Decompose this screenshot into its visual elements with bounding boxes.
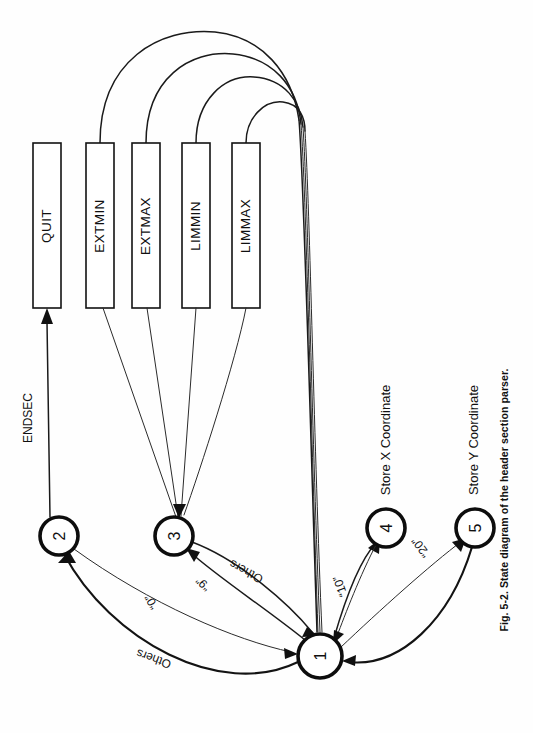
figure-container: QUIT EXTMIN EXTMAX LIMMIN LIMMAX bbox=[0, 0, 533, 733]
state-node-4[interactable]: 4 bbox=[367, 509, 405, 547]
state-circle-group: 1 2 3 4 5 bbox=[40, 509, 494, 678]
state-node-3[interactable]: 3 bbox=[155, 517, 193, 555]
edge-group-1-4: “10” bbox=[330, 539, 380, 644]
action-label-store-x: Store X Coordinate bbox=[378, 385, 393, 496]
edge-label-twenty: “20” bbox=[409, 535, 433, 560]
arrowhead-into-quit bbox=[41, 308, 53, 324]
box-limmax[interactable]: LIMMAX bbox=[232, 143, 260, 308]
box-limmin[interactable]: LIMMIN bbox=[182, 143, 210, 308]
edge-label-endsec: ENDSEC bbox=[21, 393, 35, 443]
figure-caption-group: Fig. 5-2. State diagram of the header se… bbox=[498, 368, 510, 631]
edge-state3-to-limmin bbox=[181, 308, 196, 516]
state-label-1: 1 bbox=[312, 651, 329, 660]
box-label-extmin: EXTMIN bbox=[92, 199, 107, 252]
state-label-4: 4 bbox=[378, 523, 395, 532]
edge-state3-to-extmin bbox=[103, 308, 176, 517]
state-diagram-svg: QUIT EXTMIN EXTMAX LIMMIN LIMMAX bbox=[0, 0, 533, 733]
edge-extmin-to-state1 bbox=[100, 32, 299, 143]
action-label-store-y: Store Y Coordinate bbox=[466, 385, 481, 495]
edge-label-nine: “9” bbox=[193, 574, 213, 594]
arrowhead-state2-to-state1 bbox=[284, 648, 298, 659]
edge-endsec-group: ENDSEC bbox=[21, 308, 53, 517]
action-label-group: Store X Coordinate Store Y Coordinate bbox=[378, 385, 481, 496]
figure-caption: Fig. 5-2. State diagram of the header se… bbox=[498, 368, 510, 631]
state-label-2: 2 bbox=[51, 531, 68, 540]
state-label-3: 3 bbox=[166, 531, 183, 540]
arrowhead-state5-to-state1 bbox=[342, 655, 356, 666]
edge-group-1-5: “20” bbox=[340, 535, 472, 666]
box-label-limmin: LIMMIN bbox=[188, 201, 203, 251]
edge-state1-to-state5 bbox=[340, 541, 462, 648]
box-label-extmax: EXTMAX bbox=[138, 197, 153, 255]
state-node-5[interactable]: 5 bbox=[456, 509, 494, 547]
edge-label-others-1to2: Others bbox=[134, 646, 173, 671]
box-label-quit: QUIT bbox=[39, 209, 54, 243]
edge-state3-to-extmax bbox=[147, 308, 178, 517]
edge-state2-to-state1 bbox=[74, 549, 291, 652]
state-node-1[interactable]: 1 bbox=[298, 634, 342, 678]
edge-group-1-2: Others “0” bbox=[58, 549, 298, 674]
state-label-5: 5 bbox=[467, 523, 484, 532]
edge-bundle-trunk-d bbox=[305, 131, 322, 632]
state3-to-boxes-group bbox=[103, 308, 246, 518]
edge-label-others-3to1: Others bbox=[227, 557, 265, 586]
edge-state2-to-quit bbox=[47, 322, 50, 517]
edge-group-1-3: “9” Others bbox=[186, 542, 318, 640]
edge-limmax-to-state1 bbox=[246, 102, 305, 143]
edge-state1-to-state2 bbox=[64, 554, 298, 674]
box-label-limmax: LIMMAX bbox=[238, 199, 253, 253]
box-to-state1-arc-group bbox=[100, 32, 322, 632]
box-extmax[interactable]: EXTMAX bbox=[132, 143, 160, 308]
box-extmin[interactable]: EXTMIN bbox=[86, 143, 114, 308]
edge-label-zero: “0” bbox=[142, 592, 161, 612]
box-quit[interactable]: QUIT bbox=[33, 143, 61, 308]
edge-limmin-to-state1 bbox=[196, 77, 303, 143]
state-node-2[interactable]: 2 bbox=[40, 517, 78, 555]
edge-bundle-trunk-c bbox=[303, 127, 320, 632]
edge-label-ten: “10” bbox=[330, 574, 350, 599]
box-group: QUIT EXTMIN EXTMAX LIMMIN LIMMAX bbox=[33, 143, 260, 308]
